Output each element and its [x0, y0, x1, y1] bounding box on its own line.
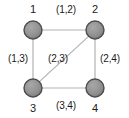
- node-label-4: 4: [92, 103, 98, 114]
- node-label-2: 2: [92, 4, 98, 15]
- edge-label-2-3: (2,3): [48, 54, 68, 64]
- edge-label-1-2: (1,2): [56, 5, 76, 15]
- graph-diagram: 1 2 3 4 (1,2) (1,3) (2,3) (2,4) (3,4): [0, 0, 129, 118]
- edge-label-3-4: (3,4): [56, 101, 76, 111]
- edge-label-1-3: (1,3): [8, 54, 28, 64]
- graph-node-3: [24, 79, 42, 97]
- edge-label-2-4: (2,4): [100, 54, 120, 64]
- node-label-1: 1: [30, 4, 36, 15]
- graph-node-1: [24, 21, 42, 39]
- node-label-3: 3: [30, 103, 36, 114]
- graph-node-4: [86, 79, 104, 97]
- graph-node-2: [86, 21, 104, 39]
